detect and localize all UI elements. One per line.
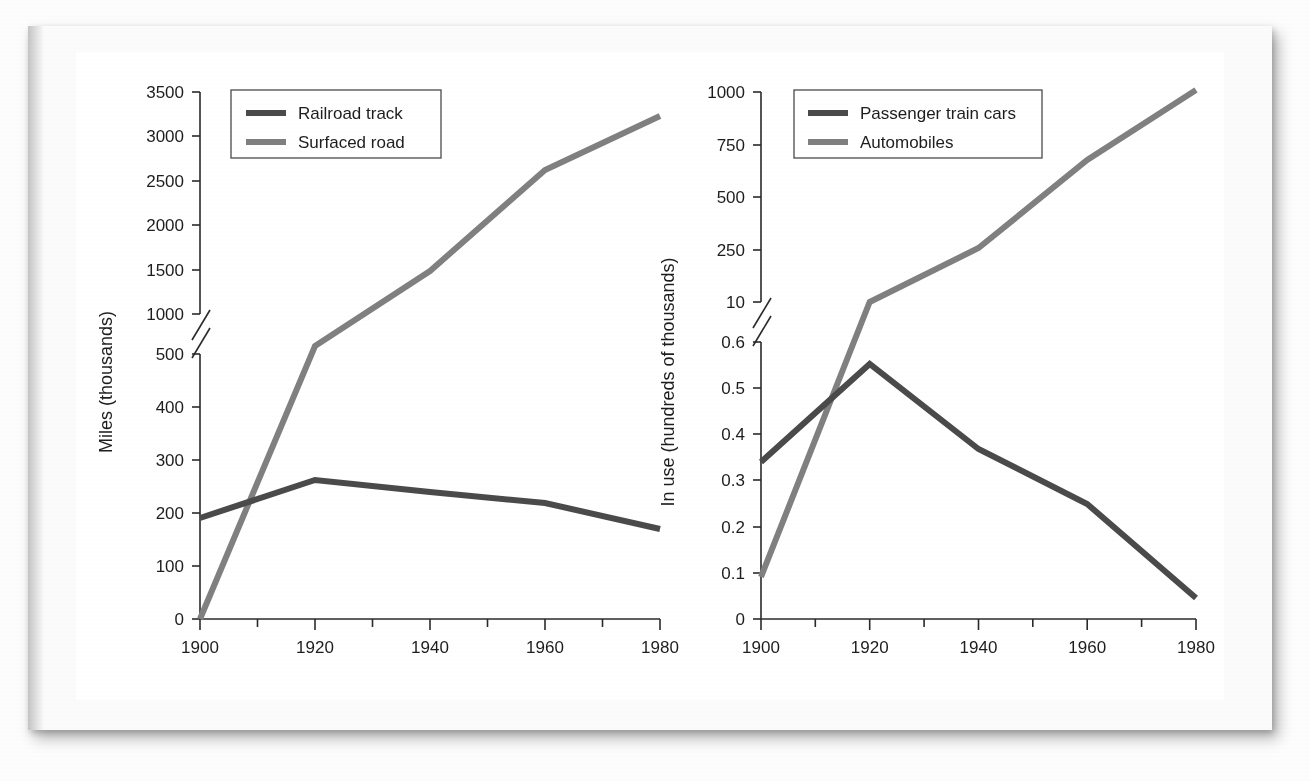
right-xtick-1940: 1940 (960, 638, 998, 657)
left-panel: Miles (thousands) (96, 83, 679, 657)
right-ytick-750: 750 (717, 136, 745, 155)
left-legend[interactable]: Railroad track Surfaced road (231, 90, 441, 158)
right-ytick-0-1: 0.1 (721, 564, 745, 583)
right-legend-label-automobiles: Automobiles (860, 133, 954, 152)
left-ytick-300: 300 (156, 451, 184, 470)
left-series-surfaced-road (200, 116, 660, 619)
left-ytick-400: 400 (156, 398, 184, 417)
right-xtick-1980: 1980 (1177, 638, 1215, 657)
figure-canvas: Miles (thousands) (76, 52, 1224, 700)
right-panel: In use (hundreds of thousands) (658, 83, 1215, 657)
right-series-automobiles (761, 90, 1196, 577)
right-legend[interactable]: Passenger train cars Automobiles (794, 90, 1042, 158)
scanned-paper-sheet: Miles (thousands) (28, 26, 1272, 730)
right-ytick-0: 0 (736, 610, 745, 629)
right-ytick-500: 500 (717, 188, 745, 207)
left-ytick-1000: 1000 (146, 305, 184, 324)
left-x-ticks-major (200, 619, 660, 630)
right-ytick-0-3: 0.3 (721, 471, 745, 490)
left-legend-label-railroad-track: Railroad track (298, 104, 403, 123)
left-ytick-100: 100 (156, 557, 184, 576)
right-ytick-0-6: 0.6 (721, 333, 745, 352)
left-xtick-1900: 1900 (181, 638, 219, 657)
right-ytick-0-4: 0.4 (721, 425, 745, 444)
right-y-ticks-upper (753, 92, 761, 302)
right-ytick-10: 10 (726, 293, 745, 312)
left-ytick-1500: 1500 (146, 261, 184, 280)
left-y-axis-title: Miles (thousands) (96, 311, 116, 453)
left-y-ticks-lower (192, 354, 200, 619)
chart-svg: Miles (thousands) (76, 52, 1224, 700)
right-series-passenger-train-cars (761, 364, 1196, 598)
left-xtick-1960: 1960 (526, 638, 564, 657)
right-ytick-0-5: 0.5 (721, 379, 745, 398)
right-y-ticks-lower (753, 342, 761, 619)
left-y-ticks-upper (192, 92, 200, 314)
right-ytick-250: 250 (717, 241, 745, 260)
left-xtick-1980: 1980 (641, 638, 679, 657)
left-ytick-3500: 3500 (146, 83, 184, 102)
left-series-railroad-track (200, 480, 660, 529)
right-legend-label-passenger-train-cars: Passenger train cars (860, 104, 1016, 123)
right-ytick-0-2: 0.2 (721, 518, 745, 537)
right-y-axis-title: In use (hundreds of thousands) (658, 257, 678, 506)
left-ytick-3000: 3000 (146, 127, 184, 146)
left-legend-label-surfaced-road: Surfaced road (298, 133, 405, 152)
right-xtick-1920: 1920 (851, 638, 889, 657)
right-ytick-1000: 1000 (707, 83, 745, 102)
left-xtick-1920: 1920 (296, 638, 334, 657)
page-shell: Miles (thousands) (0, 0, 1310, 781)
right-x-ticks-major (761, 619, 1196, 630)
two-panel-line-chart: Miles (thousands) (76, 52, 1224, 700)
left-xtick-1940: 1940 (411, 638, 449, 657)
left-ytick-2000: 2000 (146, 216, 184, 235)
left-ytick-2500: 2500 (146, 172, 184, 191)
left-ytick-0: 0 (175, 610, 184, 629)
left-ytick-200: 200 (156, 504, 184, 523)
right-xtick-1960: 1960 (1068, 638, 1106, 657)
right-xtick-1900: 1900 (742, 638, 780, 657)
left-ytick-500: 500 (156, 345, 184, 364)
